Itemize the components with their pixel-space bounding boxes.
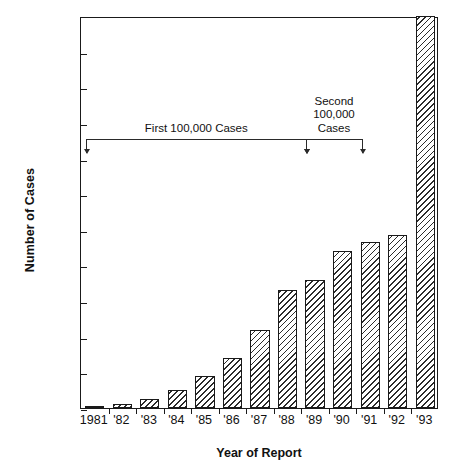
x-tick <box>191 408 192 414</box>
x-tick-label-88: '88 <box>278 413 294 427</box>
x-tick-label-90: '90 <box>333 413 349 427</box>
x-tick-label-82: '82 <box>113 413 129 427</box>
bar-86 <box>223 358 242 408</box>
bar-1981 <box>85 406 104 408</box>
x-tick-label-92: '92 <box>389 413 405 427</box>
bar-84 <box>168 390 187 408</box>
x-tick-label-86: '86 <box>223 413 239 427</box>
x-tick <box>109 408 110 414</box>
y-tick-50000 <box>81 232 87 233</box>
bar-90 <box>333 251 352 408</box>
x-tick <box>301 408 302 414</box>
x-tick-label-91: '91 <box>361 413 377 427</box>
y-tick-0 <box>81 410 87 411</box>
x-tick <box>219 408 220 414</box>
x-tick <box>329 408 330 414</box>
annotation-label-line: First 100,000 Cases <box>145 122 248 136</box>
y-axis-title: Number of Cases <box>23 140 37 300</box>
annotation-bracket-line-first-100000 <box>86 139 306 140</box>
x-tick-label-87: '87 <box>251 413 267 427</box>
bar-93 <box>416 16 435 408</box>
y-tick-10000 <box>81 374 87 375</box>
bar-92 <box>388 235 407 408</box>
x-tick-label-89: '89 <box>306 413 322 427</box>
y-tick-60000 <box>81 196 87 197</box>
annotation-arrow-second-100000-start <box>306 139 307 153</box>
annotation-arrow-first-100000-start <box>86 139 87 153</box>
y-tick-30000 <box>81 303 87 304</box>
bar-91 <box>361 242 380 408</box>
bar-87 <box>250 330 269 408</box>
x-tick-label-83: '83 <box>141 413 157 427</box>
y-tick-40000 <box>81 267 87 268</box>
x-axis-title: Year of Report <box>80 446 438 460</box>
x-tick <box>356 408 357 414</box>
bar-89 <box>305 280 324 408</box>
x-tick <box>411 408 412 414</box>
annotation-arrow-second-100000-end <box>362 139 363 153</box>
y-tick-80000 <box>81 125 87 126</box>
annotation-label-line: Second <box>313 95 355 109</box>
y-tick-70000 <box>81 161 87 162</box>
y-tick-90000 <box>81 89 87 90</box>
bar-85 <box>195 376 214 408</box>
x-tick <box>246 408 247 414</box>
x-tick <box>384 408 385 414</box>
y-tick-100000 <box>81 54 87 55</box>
x-tick-label-93: '93 <box>416 413 432 427</box>
annotation-label-first-100000: First 100,000 Cases <box>145 122 248 136</box>
plot-area: 010,00020,00030,00040,00050,00060,00070,… <box>80 17 438 409</box>
x-tick <box>274 408 275 414</box>
bar-88 <box>278 290 297 408</box>
y-tick-20000 <box>81 339 87 340</box>
x-tick-label-85: '85 <box>196 413 212 427</box>
annotation-label-line: Cases <box>313 122 355 136</box>
x-tick-label-84: '84 <box>168 413 184 427</box>
x-tick <box>164 408 165 414</box>
annotation-label-second-100000: Second100,000Cases <box>313 95 355 136</box>
bar-83 <box>140 399 159 408</box>
x-tick-label-1981: 1981 <box>80 413 108 427</box>
bar-82 <box>113 404 132 408</box>
bar-chart: Number of Cases Year of Report 010,00020… <box>0 0 454 469</box>
x-tick <box>136 408 137 414</box>
annotation-label-line: 100,000 <box>313 108 355 122</box>
annotation-bracket-line-second-100000 <box>306 139 361 140</box>
